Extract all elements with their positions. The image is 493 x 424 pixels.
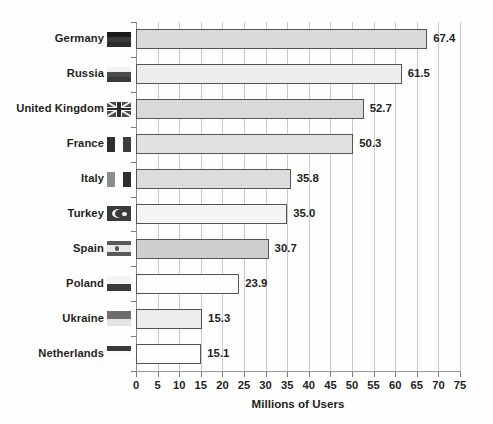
flag-segment xyxy=(107,284,131,292)
y-tick xyxy=(131,57,136,58)
bar-value-label: 35.8 xyxy=(297,173,319,184)
x-tick xyxy=(395,372,396,377)
category-label-ukraine: Ukraine xyxy=(62,313,104,324)
x-tick-label: 35 xyxy=(281,380,293,391)
y-tick xyxy=(131,301,136,302)
x-axis-title: Millions of Users xyxy=(136,398,460,410)
bar xyxy=(136,309,202,329)
category-label-germany: Germany xyxy=(55,33,104,44)
flag-segment xyxy=(107,172,115,187)
bar-chart: GermanyRussiaUnited KingdomFranceItalyTu… xyxy=(0,0,493,424)
category-label-netherlands: Netherlands xyxy=(38,348,104,359)
x-tick-label: 45 xyxy=(324,380,336,391)
flag-segment xyxy=(107,77,131,82)
x-tick xyxy=(330,372,331,377)
flag-segment xyxy=(107,319,131,327)
flag-segment xyxy=(117,102,120,117)
bar-value-label: 35.0 xyxy=(293,208,315,219)
it-flag-icon xyxy=(107,172,131,187)
y-tick xyxy=(131,336,136,337)
x-tick xyxy=(374,372,375,377)
y-tick xyxy=(131,197,136,198)
x-tick-label: 60 xyxy=(389,380,401,391)
bar xyxy=(136,134,353,154)
x-tick-label: 70 xyxy=(432,380,444,391)
x-tick xyxy=(460,372,461,377)
x-tick xyxy=(179,372,180,377)
bar-value-label: 15.3 xyxy=(208,313,230,324)
bar-value-label: 23.9 xyxy=(245,278,267,289)
x-tick xyxy=(158,372,159,377)
x-tick-label: 65 xyxy=(411,380,423,391)
bar xyxy=(136,29,427,49)
y-tick xyxy=(131,92,136,93)
x-tick-label: 55 xyxy=(367,380,379,391)
flag-segment xyxy=(107,42,131,47)
x-tick xyxy=(244,372,245,377)
pl-flag-icon xyxy=(107,276,131,291)
bar xyxy=(136,274,239,294)
ua-flag-icon xyxy=(107,311,131,326)
x-tick-label: 30 xyxy=(259,380,271,391)
flag-segment xyxy=(107,351,131,356)
y-tick xyxy=(131,266,136,267)
bar-value-label: 52.7 xyxy=(370,103,392,114)
y-tick xyxy=(131,231,136,232)
flag-segment xyxy=(123,137,131,152)
gridline xyxy=(460,22,461,371)
x-tick xyxy=(266,372,267,377)
x-tick-label: 0 xyxy=(133,380,139,391)
x-tick xyxy=(222,372,223,377)
bar-value-label: 30.7 xyxy=(275,243,297,254)
y-tick xyxy=(131,22,136,23)
gb-flag-icon xyxy=(107,102,131,117)
y-tick xyxy=(131,127,136,128)
flag-segment xyxy=(115,137,123,152)
bar-value-label: 15.1 xyxy=(207,348,229,359)
x-tick xyxy=(417,372,418,377)
x-tick xyxy=(352,372,353,377)
x-tick xyxy=(309,372,310,377)
bar-value-label: 50.3 xyxy=(359,138,381,149)
bar xyxy=(136,99,364,119)
bar xyxy=(136,169,291,189)
x-tick xyxy=(201,372,202,377)
category-label-spain: Spain xyxy=(73,243,104,254)
es-flag-icon xyxy=(107,241,131,256)
x-axis-line xyxy=(136,371,461,372)
flag-segment xyxy=(123,172,131,187)
x-tick-label: 40 xyxy=(303,380,315,391)
x-tick xyxy=(287,372,288,377)
flag-segment xyxy=(115,172,123,187)
gridline xyxy=(438,22,439,371)
x-tick xyxy=(136,372,137,377)
bar-value-label: 67.4 xyxy=(433,33,455,44)
fr-flag-icon xyxy=(107,137,131,152)
x-tick-label: 75 xyxy=(454,380,466,391)
x-tick-label: 50 xyxy=(346,380,358,391)
x-tick-label: 20 xyxy=(216,380,228,391)
tr-flag-icon xyxy=(107,206,131,221)
bar-value-label: 61.5 xyxy=(408,68,430,79)
nl-flag-icon xyxy=(107,346,131,361)
x-tick-label: 10 xyxy=(173,380,185,391)
y-tick xyxy=(131,371,136,372)
bar xyxy=(136,204,287,224)
category-label-france: France xyxy=(67,138,104,149)
x-tick xyxy=(438,372,439,377)
x-tick-label: 15 xyxy=(195,380,207,391)
category-label-turkey: Turkey xyxy=(68,208,104,219)
bar xyxy=(136,344,201,364)
category-label-poland: Poland xyxy=(66,278,104,289)
category-label-russia: Russia xyxy=(67,68,104,79)
flag-segment xyxy=(107,276,131,284)
x-tick-label: 25 xyxy=(238,380,250,391)
flag-segment xyxy=(107,137,115,152)
y-tick xyxy=(131,162,136,163)
category-label-united-kingdom: United Kingdom xyxy=(16,103,104,114)
flag-segment xyxy=(107,252,131,256)
de-flag-icon xyxy=(107,32,131,47)
category-label-italy: Italy xyxy=(81,173,104,184)
bar xyxy=(136,64,402,84)
x-tick-label: 5 xyxy=(154,380,160,391)
